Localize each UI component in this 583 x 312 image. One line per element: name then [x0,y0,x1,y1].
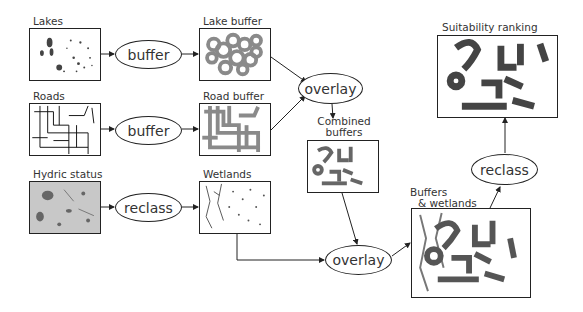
overlay-operation: overlay [325,245,392,275]
reclass-operation: reclass [471,154,538,185]
wetlands-map [199,181,271,234]
road-buffer-map [199,103,271,156]
road-buffer-label: Road buffer [203,91,264,102]
overlay-operation: overlay [298,73,363,104]
lakes-map [29,28,101,81]
buffer-operation: buffer [115,116,182,145]
hydric-status-label: Hydric status [33,169,102,180]
suitability-ranking-map [437,35,558,118]
roads-label: Roads [33,91,65,102]
hydric-status-map [29,181,101,234]
combined-buffers-label: Combined buffers [309,116,379,138]
lake-buffer-map [199,28,271,81]
buffer-operation: buffer [115,40,182,69]
buffers-wetlands-map [411,208,531,298]
roads-map [29,103,101,156]
lakes-label: Lakes [33,16,63,27]
lake-buffer-label: Lake buffer [203,16,262,27]
buffers-wetlands-label: Buffers & wetlands [410,187,477,209]
combined-buffers-map [307,140,379,193]
wetlands-label: Wetlands [203,169,252,180]
suitability-ranking-label: Suitability ranking [442,22,538,33]
reclass-operation: reclass [115,193,182,222]
